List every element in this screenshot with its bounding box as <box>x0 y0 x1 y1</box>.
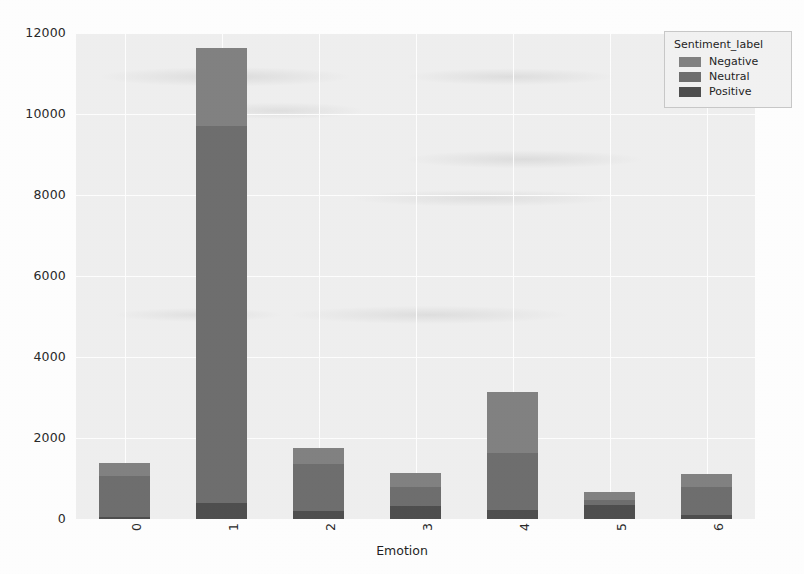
bar-segment[interactable] <box>390 487 440 505</box>
y-axis-tick-label: 8000 <box>33 187 66 202</box>
bar-group[interactable] <box>99 33 149 519</box>
x-axis-tick-label: 1 <box>225 523 240 531</box>
bar-segment[interactable] <box>99 463 149 476</box>
x-axis-tick-label: 0 <box>128 523 143 531</box>
bar-segment[interactable] <box>196 126 246 503</box>
bar-segment[interactable] <box>584 492 634 500</box>
bar-group[interactable] <box>196 33 246 519</box>
chart-figure: 020004000600080001000012000 0123456 Emot… <box>0 0 804 574</box>
bar-segment[interactable] <box>293 464 343 511</box>
legend-swatch-icon <box>679 87 701 97</box>
x-axis-tick-label: 6 <box>710 523 725 531</box>
legend-entry[interactable]: Neutral <box>679 70 783 83</box>
bar-segment[interactable] <box>196 503 246 519</box>
bar-group[interactable] <box>293 33 343 519</box>
y-axis-tick-label: 12000 <box>25 25 66 40</box>
bar-segment[interactable] <box>487 510 537 519</box>
bar-segment[interactable] <box>681 515 731 519</box>
bar-segment[interactable] <box>681 487 731 515</box>
bar-segment[interactable] <box>196 48 246 126</box>
x-axis-tick-label: 3 <box>419 523 434 531</box>
legend: Sentiment_label NegativeNeutralPositive <box>664 31 792 108</box>
bar-segment[interactable] <box>293 511 343 519</box>
x-axis-label: Emotion <box>0 543 804 558</box>
plot-area <box>76 33 755 519</box>
bar-segment[interactable] <box>293 448 343 465</box>
legend-title: Sentiment_label <box>674 38 783 51</box>
legend-entry-label: Negative <box>709 55 758 68</box>
x-axis-tick-label: 2 <box>322 523 337 531</box>
gridline-horizontal <box>76 519 755 520</box>
y-axis-tick-label: 2000 <box>33 430 66 445</box>
legend-entry[interactable]: Positive <box>679 85 783 98</box>
bar-segment[interactable] <box>584 500 634 505</box>
legend-swatch-icon <box>679 57 701 67</box>
legend-entry-label: Positive <box>709 85 751 98</box>
bar-segment[interactable] <box>584 505 634 519</box>
x-axis-tick-label: 5 <box>613 523 628 531</box>
y-axis-tick-label: 4000 <box>33 349 66 364</box>
bar-group[interactable] <box>487 33 537 519</box>
y-axis-tick-label: 6000 <box>33 268 66 283</box>
bar-segment[interactable] <box>390 506 440 519</box>
bar-segment[interactable] <box>99 517 149 519</box>
x-axis-tick-label: 4 <box>516 523 531 531</box>
y-axis-tick-label: 0 <box>58 511 66 526</box>
bar-segment[interactable] <box>487 453 537 510</box>
bar-segment[interactable] <box>390 473 440 487</box>
legend-entry[interactable]: Negative <box>679 55 783 68</box>
legend-swatch-icon <box>679 72 701 82</box>
bar-segment[interactable] <box>99 476 149 517</box>
bar-segment[interactable] <box>487 392 537 453</box>
legend-entry-list: NegativeNeutralPositive <box>673 55 783 98</box>
legend-entry-label: Neutral <box>709 70 750 83</box>
bar-group[interactable] <box>584 33 634 519</box>
bar-group[interactable] <box>390 33 440 519</box>
bar-segment[interactable] <box>681 474 731 486</box>
y-axis-tick-label: 10000 <box>25 106 66 121</box>
